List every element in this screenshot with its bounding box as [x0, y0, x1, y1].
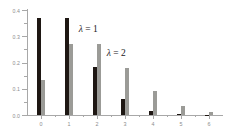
x-tick-minor: [55, 115, 56, 117]
equals-symbol: =: [83, 24, 93, 34]
bar: [93, 67, 97, 115]
x-tick-minor: [167, 115, 168, 117]
x-tick-2: [97, 115, 98, 119]
x-tick-minor: [195, 115, 196, 117]
y-tick-label: 0.3: [12, 34, 20, 40]
x-tick-label: 1: [64, 121, 74, 127]
x-tick-label: 6: [204, 121, 214, 127]
x-tick-0: [41, 115, 42, 119]
bar: [97, 44, 101, 115]
equals-symbol: =: [111, 48, 121, 58]
bars-layer: [27, 10, 223, 115]
x-tick-label: 3: [120, 121, 130, 127]
bar: [181, 106, 185, 115]
x-tick-4: [153, 115, 154, 119]
x-tick-6: [209, 115, 210, 119]
x-tick-label: 5: [176, 121, 186, 127]
x-tick-label: 0: [36, 121, 46, 127]
bar: [149, 111, 153, 115]
x-tick-minor: [111, 115, 112, 117]
bar: [41, 80, 45, 115]
bar: [65, 18, 69, 115]
bar: [121, 99, 125, 115]
plot-area: [27, 10, 223, 115]
y-tick-0.0: 0.0: [22, 115, 27, 116]
y-tick-label: 0.1: [12, 86, 20, 92]
y-tick-label: 0.2: [12, 60, 20, 66]
x-tick-5: [181, 115, 182, 119]
bar: [125, 68, 129, 115]
poisson-pmf-chart: 0.00.10.20.30.4 0123456 λ = 1λ = 2: [0, 0, 228, 136]
lambda-value: 1: [93, 24, 98, 34]
x-tick-1: [69, 115, 70, 119]
x-tick-label: 4: [148, 121, 158, 127]
x-tick-3: [125, 115, 126, 119]
x-tick-label: 2: [92, 121, 102, 127]
bar: [209, 112, 213, 115]
y-tick-label: 0.0: [12, 113, 20, 119]
series-annotation-lambda-2: λ = 2: [107, 48, 126, 58]
series-annotation-lambda-1: λ = 1: [79, 24, 98, 34]
bar: [153, 91, 157, 115]
x-tick-minor: [139, 115, 140, 117]
x-tick-minor: [83, 115, 84, 117]
bar: [69, 44, 73, 115]
bar: [177, 114, 181, 115]
y-tick-label: 0.4: [12, 8, 20, 14]
bar: [37, 18, 41, 115]
lambda-value: 2: [121, 48, 126, 58]
